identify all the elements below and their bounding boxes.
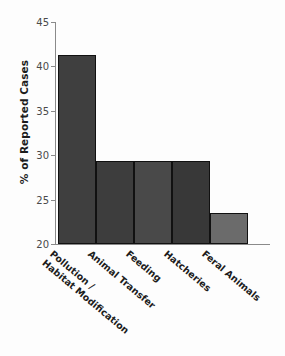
y-axis-line xyxy=(55,22,56,244)
bar xyxy=(210,213,248,244)
bar xyxy=(58,55,96,244)
bar xyxy=(134,161,172,244)
x-axis-line xyxy=(55,244,270,245)
y-axis-tick-mark xyxy=(51,200,55,201)
y-axis-title: % of Reported Cases xyxy=(18,0,40,244)
y-axis-tick-label: 25 xyxy=(36,194,49,205)
bar-chart-figure: % of Reported Cases 202530354045 Polluti… xyxy=(0,0,285,356)
y-axis-tick-mark xyxy=(51,66,55,67)
y-axis-tick-label: 30 xyxy=(36,150,49,161)
y-axis-tick-mark xyxy=(51,111,55,112)
x-axis-tick-labels: Pollution /Habitat ModificationAnimal Tr… xyxy=(0,248,285,356)
bar xyxy=(172,161,210,244)
y-axis-tick-label: 35 xyxy=(36,105,49,116)
y-axis-tick-label: 45 xyxy=(36,17,49,28)
y-axis-tick-mark xyxy=(51,244,55,245)
y-axis-tick-label: 40 xyxy=(36,61,49,72)
bar xyxy=(96,161,134,244)
x-axis-tick-label: Pollution /Habitat Modification xyxy=(40,248,139,336)
x-axis-tick-label: Feral Animals xyxy=(200,248,263,304)
plot-area: 202530354045 xyxy=(55,22,270,244)
y-axis-tick-mark xyxy=(51,22,55,23)
y-axis-tick-mark xyxy=(51,155,55,156)
